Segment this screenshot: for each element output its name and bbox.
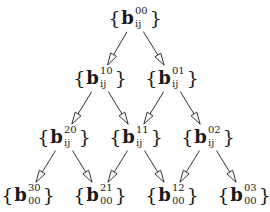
node-superscript: 10	[100, 66, 113, 76]
hollow-arrowhead-icon	[36, 170, 45, 182]
node-b-21-00: { b 2100 }	[73, 185, 127, 205]
node-base: b	[86, 69, 99, 87]
node-subscript: ij	[64, 138, 70, 148]
open-brace: {	[145, 69, 157, 88]
arrow-edge	[108, 151, 128, 183]
hollow-arrowhead-icon	[83, 170, 92, 182]
arrow-edge	[108, 92, 128, 125]
node-b-30-00: { b 3000 }	[1, 185, 55, 205]
hollow-arrowhead-icon	[108, 170, 117, 182]
arrow-edge	[108, 32, 127, 65]
node-superscript: 30	[28, 183, 41, 193]
arrow-edge	[72, 151, 92, 183]
tree-diagram: { b 00ij } { b 10ij } { b 01ij } { b 20i…	[0, 0, 270, 212]
node-superscript: 11	[136, 125, 149, 135]
node-b-20-ij: { b 20ij }	[37, 127, 91, 147]
node-superscript: 02	[208, 125, 221, 135]
close-brace: }	[115, 69, 127, 88]
open-brace: {	[73, 69, 85, 88]
arrow-edge	[144, 151, 164, 183]
node-subscript: ij	[172, 79, 178, 89]
node-subscript: 00	[244, 196, 257, 206]
hollow-arrowhead-icon	[180, 170, 189, 182]
node-base: b	[86, 186, 99, 204]
close-brace: }	[43, 186, 55, 205]
node-b-10-ij: { b 10ij }	[73, 68, 127, 88]
node-base: b	[121, 9, 134, 27]
node-base: b	[158, 69, 171, 87]
node-base: b	[194, 128, 207, 146]
node-b-00-ij: { b 00ij }	[108, 8, 162, 28]
open-brace: {	[145, 186, 157, 205]
open-brace: {	[217, 186, 229, 205]
hollow-arrowhead-icon	[227, 170, 236, 182]
hollow-arrowhead-icon	[144, 112, 153, 124]
arrow-edge	[180, 151, 200, 183]
node-subscript: 00	[28, 196, 41, 206]
open-brace: {	[181, 128, 193, 147]
node-b-02-ij: { b 02ij }	[181, 127, 235, 147]
hollow-arrowhead-icon	[155, 53, 164, 65]
open-brace: {	[1, 186, 13, 205]
arrow-edge	[180, 92, 200, 125]
node-base: b	[230, 186, 243, 204]
node-superscript: 20	[64, 125, 77, 135]
hollow-arrowhead-icon	[72, 112, 81, 124]
close-brace: }	[115, 186, 127, 205]
node-subscript: ij	[100, 79, 106, 89]
node-subscript: ij	[136, 138, 142, 148]
node-base: b	[158, 186, 171, 204]
edges-layer	[0, 0, 270, 212]
open-brace: {	[108, 9, 120, 28]
close-brace: }	[150, 9, 162, 28]
open-brace: {	[73, 186, 85, 205]
close-brace: }	[187, 186, 199, 205]
open-brace: {	[37, 128, 49, 147]
node-base: b	[50, 128, 63, 146]
node-b-03-00: { b 0300 }	[217, 185, 270, 205]
node-superscript: 03	[244, 183, 257, 193]
close-brace: }	[187, 69, 199, 88]
node-subscript: 00	[172, 196, 185, 206]
node-b-12-00: { b 1200 }	[145, 185, 199, 205]
node-superscript: 12	[172, 183, 185, 193]
arrow-edge	[144, 92, 164, 125]
open-brace: {	[109, 128, 121, 147]
close-brace: }	[151, 128, 163, 147]
node-subscript: ij	[208, 138, 214, 148]
arrow-edge	[216, 151, 236, 183]
node-subscript: 00	[100, 196, 113, 206]
node-superscript: 00	[135, 6, 148, 16]
arrow-edge	[72, 92, 92, 125]
hollow-arrowhead-icon	[155, 170, 164, 182]
node-subscript: ij	[135, 19, 141, 29]
hollow-arrowhead-icon	[191, 112, 200, 124]
close-brace: }	[259, 186, 270, 205]
close-brace: }	[223, 128, 235, 147]
hollow-arrowhead-icon	[108, 53, 117, 65]
close-brace: }	[79, 128, 91, 147]
node-b-01-ij: { b 01ij }	[145, 68, 199, 88]
node-base: b	[122, 128, 135, 146]
node-superscript: 01	[172, 66, 185, 76]
arrow-edge	[36, 151, 56, 183]
node-base: b	[14, 186, 27, 204]
arrow-edge	[143, 32, 164, 66]
hollow-arrowhead-icon	[119, 112, 128, 124]
node-superscript: 21	[100, 183, 113, 193]
node-b-11-ij: { b 11ij }	[109, 127, 163, 147]
